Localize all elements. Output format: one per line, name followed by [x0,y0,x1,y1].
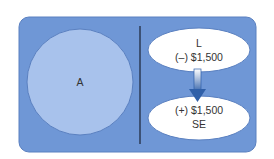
liabilities-ellipse [148,28,250,72]
equity-amount: (+) $1,500 [150,104,248,117]
liabilities-amount: (–) $1,500 [150,51,248,64]
liabilities-label: L [150,37,248,50]
assets-label: A [60,76,100,89]
equation-diagram [0,0,274,159]
equity-label: SE [150,118,248,131]
